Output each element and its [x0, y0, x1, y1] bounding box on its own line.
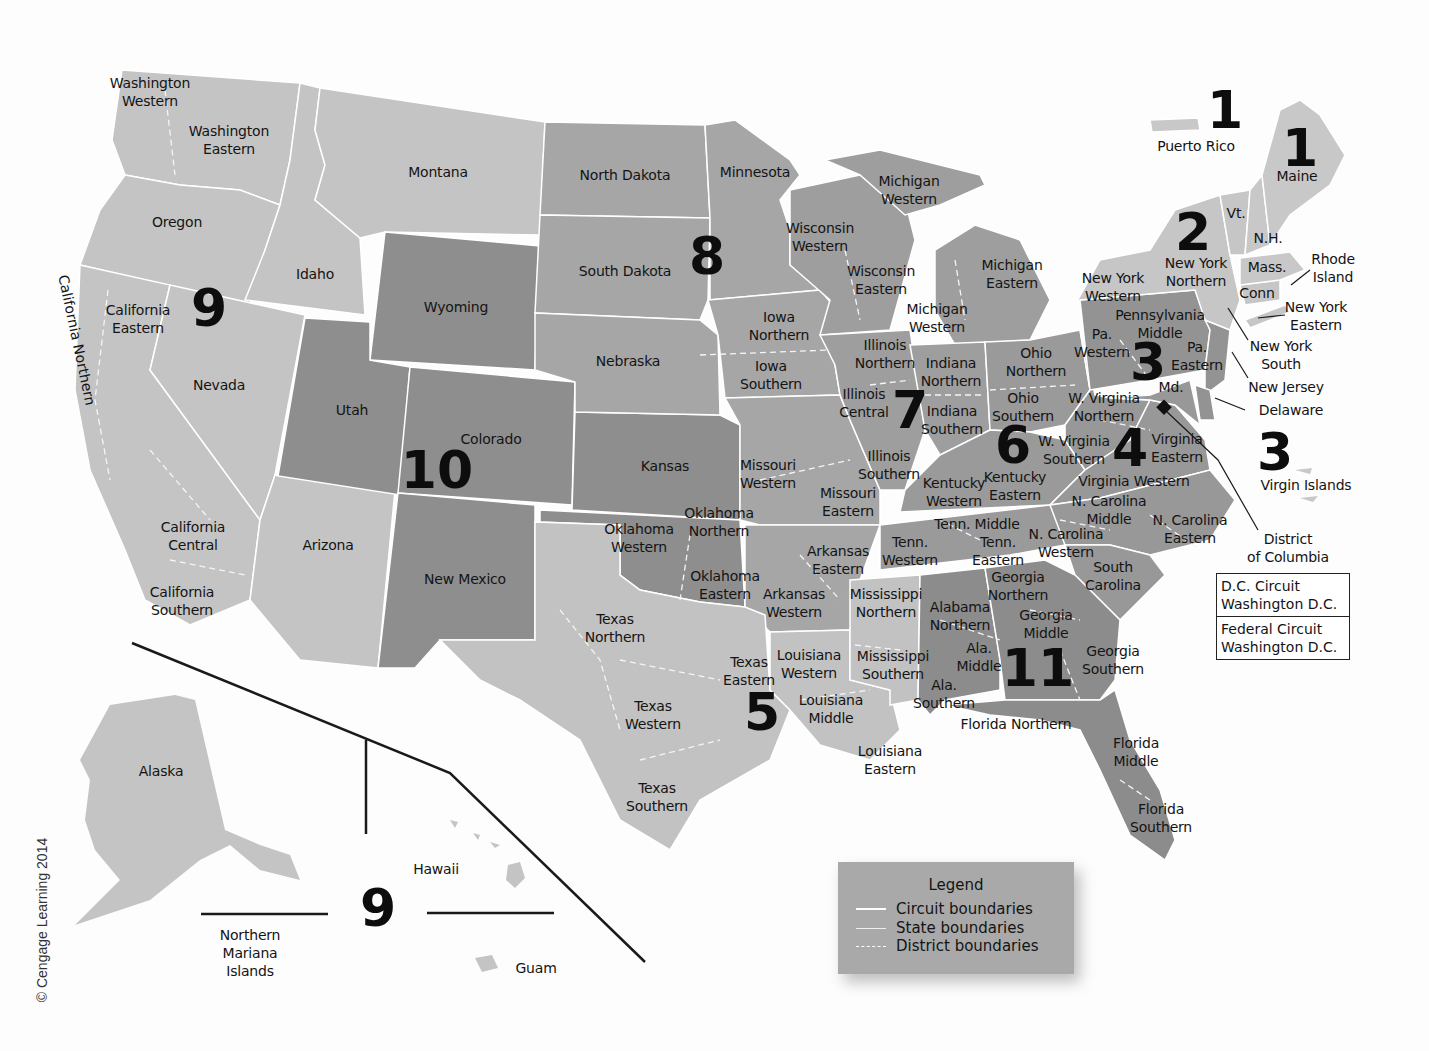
district-label: North Dakota	[580, 166, 671, 184]
district-label: Missouri Western	[740, 456, 796, 492]
district-label: N. Carolina Western	[1029, 525, 1104, 561]
legend-title: Legend	[838, 876, 1074, 894]
district-label: Wyoming	[424, 298, 488, 316]
district-label: Virginia Eastern	[1151, 430, 1203, 466]
district-label: Oklahoma Western	[604, 520, 674, 556]
puerto-rico	[1150, 118, 1200, 132]
district-label: New Mexico	[424, 570, 506, 588]
district-label: Minnesota	[720, 163, 790, 181]
district-label: Ala. Southern	[913, 676, 975, 712]
district-label: Michigan Eastern	[981, 256, 1042, 292]
district-label: Alaska	[139, 762, 184, 780]
district-label: W. Virginia Southern	[1038, 432, 1110, 468]
district-label: Arkansas Western	[763, 585, 825, 621]
state-alaska	[75, 695, 300, 925]
district-label: Utah	[336, 401, 368, 419]
district-label: Pa. Western	[1074, 325, 1130, 361]
state-arizona	[250, 475, 395, 668]
district-label: Wisconsin Eastern	[847, 262, 915, 298]
circuit-number: 4	[1112, 422, 1148, 474]
district-label: New York Eastern	[1285, 298, 1348, 334]
district-label: Iowa Southern	[740, 357, 802, 393]
district-label: Georgia Middle	[1019, 606, 1073, 642]
circuit-number: 10	[401, 444, 473, 496]
district-label: Kentucky Western	[923, 474, 985, 510]
circuit-number: 3	[1257, 426, 1293, 478]
district-label: Georgia Northern	[988, 568, 1049, 604]
district-label: Vt.	[1227, 204, 1246, 222]
district-label: Louisiana Eastern	[858, 742, 922, 778]
legend-label: Circuit boundaries	[896, 900, 1033, 918]
circuit-number: 9	[360, 882, 396, 934]
district-label: Mississippi Northern	[850, 585, 922, 621]
district-label: Ohio Northern	[1006, 344, 1067, 380]
district-label: Rhode Island	[1311, 250, 1355, 286]
district-label: Kansas	[641, 457, 689, 475]
district-label: Michigan Western	[878, 172, 939, 208]
legend-item-circuit: Circuit boundaries	[856, 900, 1033, 918]
district-label: Illinois Southern	[858, 447, 920, 483]
circuit-boundary-swatch-icon	[856, 908, 886, 910]
legend-label: District boundaries	[896, 937, 1038, 955]
district-label: Indiana Southern	[921, 402, 983, 438]
dc-circuit-label: D.C. Circuit Washington D.C.	[1217, 574, 1349, 616]
district-label: Tenn. Middle	[934, 515, 1019, 533]
district-label: California Central	[161, 518, 225, 554]
district-label: Washington Western	[110, 74, 190, 110]
circuit-number: 2	[1175, 206, 1211, 258]
district-label: Northern Mariana Islands	[220, 926, 281, 980]
district-label: District of Columbia	[1247, 530, 1329, 566]
district-label: Montana	[408, 163, 468, 181]
guam	[475, 955, 498, 972]
district-label: Idaho	[296, 265, 334, 283]
hawaii-big-island	[506, 862, 525, 888]
federal-circuit-label: Federal Circuit Washington D.C.	[1217, 616, 1349, 659]
circuit-number: 6	[995, 419, 1031, 471]
district-label: South Carolina	[1085, 558, 1141, 594]
district-label: Illinois Northern	[855, 336, 916, 372]
circuit-number: 7	[892, 384, 928, 436]
district-label: South Dakota	[579, 262, 671, 280]
district-label: Washington Eastern	[189, 122, 269, 158]
circuit-number: 1	[1282, 122, 1318, 174]
legend-label: State boundaries	[896, 919, 1024, 937]
district-label: Arizona	[302, 536, 353, 554]
district-label: New Jersey	[1248, 378, 1324, 396]
district-label: Michigan Western	[906, 300, 967, 336]
district-label: Illinois Central	[839, 385, 889, 421]
district-label: Louisiana Western	[777, 646, 841, 682]
district-label: New York Western	[1082, 269, 1145, 305]
circuit-number: 11	[1002, 642, 1074, 694]
district-label: Texas Northern	[585, 610, 646, 646]
legend-item-district: District boundaries	[856, 937, 1038, 955]
circuit-number: 9	[191, 282, 227, 334]
district-label: Florida Northern	[960, 715, 1071, 733]
circuit-number: 5	[744, 686, 780, 738]
district-label: Mass.	[1248, 258, 1287, 276]
district-label: Oregon	[152, 213, 202, 231]
dc-federal-circuit-box: D.C. Circuit Washington D.C. Federal Cir…	[1216, 573, 1350, 660]
district-label: Ala. Middle	[956, 639, 1001, 675]
circuit-number: 3	[1130, 336, 1166, 388]
district-label: Conn	[1239, 284, 1274, 302]
district-label: Missouri Eastern	[820, 484, 876, 520]
district-label: Texas Southern	[626, 779, 688, 815]
district-label: New York South	[1250, 337, 1313, 373]
district-label: Arkansas Eastern	[807, 542, 869, 578]
district-label: N.H.	[1254, 229, 1283, 247]
district-label: N. Carolina Eastern	[1153, 511, 1228, 547]
legend: Legend Circuit boundaries State boundari…	[838, 862, 1074, 974]
district-label: Florida Middle	[1113, 734, 1159, 770]
hawaii-islands	[450, 820, 500, 848]
district-label: Tenn. Western	[882, 533, 938, 569]
copyright-notice: © Cengage Learning 2014	[34, 838, 50, 1002]
district-label: Louisiana Middle	[799, 691, 863, 727]
district-label: Georgia Southern	[1082, 642, 1144, 678]
district-label: Delaware	[1259, 401, 1323, 419]
circuit-number: 1	[1207, 84, 1243, 136]
state-boundary-swatch-icon	[856, 928, 886, 929]
district-label: Florida Southern	[1130, 800, 1192, 836]
district-label: Texas Western	[625, 697, 681, 733]
district-label: Pa. Eastern	[1171, 338, 1223, 374]
district-label: Alabama Northern	[930, 598, 991, 634]
